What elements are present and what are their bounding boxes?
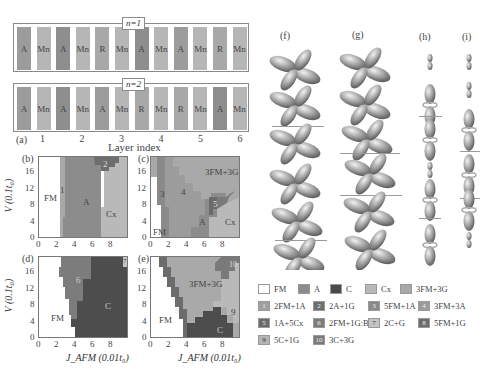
legend-label: 5C+1G (274, 335, 299, 345)
x-tick: 8 (108, 339, 113, 349)
panel-b-label: (b) (22, 153, 34, 164)
layer-cell: R (174, 87, 188, 130)
chain-n1: AMnAMnRMnAMnAMnRMn (13, 23, 249, 72)
x-tick: 4 (72, 239, 77, 249)
region-3fm3g: 3FM+3G (205, 167, 239, 177)
region-a: A (83, 197, 90, 207)
legend-swatch: 8 (418, 318, 430, 328)
region-3: 3 (160, 189, 165, 199)
legend-swatch (400, 284, 412, 294)
phase-diagram-d: FM 6 C 7 (38, 256, 128, 338)
layer-cell: Mn (76, 87, 90, 130)
layer-cell: A (17, 87, 31, 130)
phase-diagram-e: FM 8 3FM+3G 9 10 C (150, 256, 240, 338)
y-tick: 16 (137, 266, 146, 276)
legend-label: 2FM+1G:B (329, 318, 369, 328)
panel-a-label: (a) (16, 134, 27, 145)
layer-cell: Mn (154, 27, 168, 70)
y-tick: 12 (137, 183, 146, 193)
layer-cell: A (17, 27, 31, 70)
layer-cell: Mn (233, 87, 247, 130)
x-tick: 4 (184, 239, 189, 249)
y-tick: 4 (30, 216, 35, 226)
legend-swatch: 6 (313, 318, 325, 328)
panel-d-label: (d) (22, 253, 34, 264)
region-5: 5 (213, 199, 218, 209)
region-1: 1 (60, 185, 65, 195)
region-c: C (217, 325, 223, 335)
region-6: 6 (76, 275, 81, 285)
legend-swatch: 5 (258, 318, 270, 328)
legend-item: 35FM+1A (368, 301, 416, 311)
legend-label: 3FM+3A (434, 301, 466, 311)
legend-item: C (330, 284, 352, 294)
layer-cell: A (213, 87, 227, 130)
layer-cell: Mn (115, 27, 129, 70)
y-tick: 8 (142, 299, 147, 309)
x-tick: 6 (90, 339, 95, 349)
region-a: A (199, 217, 206, 227)
legend-label: Cx (381, 284, 391, 294)
legend-item: A (298, 284, 320, 294)
region-c: C (105, 301, 111, 311)
legend-item: 22A+1G (313, 301, 355, 311)
x-tick: 4 (72, 339, 77, 349)
layer-cell: Mn (193, 87, 207, 130)
layer-index-label: Layer index (108, 141, 161, 153)
legend-label: 3C+3G (329, 335, 354, 345)
x-tick: 2 (54, 339, 59, 349)
legend-swatch: 2 (313, 301, 325, 311)
legend-item: 51A+5Cx (258, 318, 303, 328)
region-7: 7 (123, 257, 127, 265)
x-tick: 2 (54, 239, 59, 249)
layer-cell: A (95, 87, 109, 130)
legend-item: 85FM+1G (418, 318, 466, 328)
legend-item: 3FM+3G (400, 284, 448, 294)
legend-label: 2FM+1A (274, 301, 306, 311)
y-tick: 16 (137, 166, 146, 176)
layer-cell: R (213, 27, 227, 70)
region-fm: FM (51, 313, 64, 323)
legend-swatch (258, 284, 270, 294)
x-tick: 0 (148, 239, 153, 249)
y-tick: 4 (142, 316, 147, 326)
y-tick: 12 (25, 283, 34, 293)
legend-label: 5FM+1A (384, 301, 416, 311)
region-8: 8 (175, 307, 179, 316)
layer-cell: A (56, 27, 70, 70)
legend-label: 2A+1G (329, 301, 355, 311)
x-tick: 2 (166, 339, 171, 349)
x-tick: 0 (148, 339, 153, 349)
layer-cell: Mn (76, 27, 90, 70)
x-tick: 8 (220, 339, 225, 349)
legend-item: 12FM+1A (258, 301, 306, 311)
layer-cell: Mn (37, 87, 51, 130)
y-tick: 12 (137, 283, 146, 293)
y-tick: 12 (25, 183, 34, 193)
y-tick: 0 (30, 232, 35, 242)
y-axis-label-bottom: V (0.1t₀) (3, 279, 14, 313)
x-tick: 4 (184, 339, 189, 349)
layer-cell: Mn (193, 27, 207, 70)
legend-item: 95C+1G (258, 335, 299, 345)
x-tick: 0 (36, 339, 41, 349)
legend-swatch: 1 (258, 301, 270, 311)
region-9: 9 (231, 307, 236, 317)
layer-tick: 6 (238, 133, 243, 144)
layer-cell: Mn (154, 87, 168, 130)
legend-label: 2C+G (384, 318, 405, 328)
y-axis-label-top: V (0.1t₀) (3, 179, 14, 213)
orbital-chains (255, 40, 494, 270)
legend-swatch (365, 284, 377, 294)
layer-cell: R (135, 87, 149, 130)
layer-tick: 2 (80, 133, 85, 144)
layer-cell: R (95, 27, 109, 70)
region-cx: Cx (225, 217, 236, 227)
legend-item: 62FM+1G:B (313, 318, 369, 328)
y-tick: 4 (142, 216, 147, 226)
y-tick: 16 (25, 166, 34, 176)
layer-cell: A (135, 27, 149, 70)
region-fm: FM (159, 315, 172, 325)
legend-swatch: 7 (368, 318, 380, 328)
x-axis-label-e: J_AFM (0.01t₀) (178, 352, 241, 363)
